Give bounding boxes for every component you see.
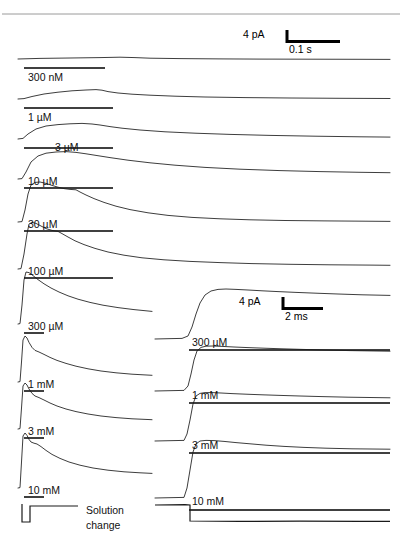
calibration-bar-slow (286, 30, 341, 43)
trace-right-10mM (155, 440, 390, 498)
conc-label-left-10mM: 10 mM (28, 485, 60, 496)
conc-label-left-100uM: 100 µM (28, 266, 63, 277)
trace-left-1uM (18, 90, 390, 99)
solution-change-left-pulse (22, 504, 78, 522)
trace-left-100uM (18, 222, 390, 269)
figure-canvas: 4 pA 0.1 s 4 pA 2 ms 300 nM 1 µM 3 µM 10… (0, 0, 404, 552)
trace-right-300uM (155, 289, 390, 339)
conc-label-right-300uM: 300 µM (192, 337, 227, 348)
conc-label-left-3mM: 3 mM (28, 426, 54, 437)
scale-current-label-fast: 4 pA (239, 295, 261, 307)
trace-right-3mM (155, 393, 390, 441)
trace-right-1mM (155, 346, 390, 391)
calibration-bar-fast (282, 297, 324, 310)
solution-change-label-line2: change (86, 520, 120, 531)
trace-left-10uM (18, 152, 390, 179)
conc-label-left-1uM: 1 µM (28, 112, 52, 123)
trace-left-300uM (18, 272, 152, 324)
scale-time-label-slow: 0.1 s (289, 43, 312, 55)
scale-time-label-fast: 2 ms (285, 310, 308, 322)
solution-change-right-step (155, 505, 390, 522)
trace-left-1mM (18, 336, 152, 382)
trace-left-10mM (18, 433, 152, 488)
conc-label-left-1mM: 1 mM (28, 379, 54, 390)
trace-left-3uM (18, 123, 390, 139)
conc-label-left-300nM: 300 nM (28, 72, 63, 83)
solution-change-label-line1: Solution (86, 505, 124, 516)
conc-label-right-1mM: 1 mM (192, 390, 218, 401)
conc-label-right-3mM: 3 mM (192, 440, 218, 451)
scale-current-label-slow: 4 pA (243, 28, 265, 40)
trace-left-300nM (18, 57, 390, 59)
conc-label-left-3uM: 3 µM (55, 142, 79, 153)
conc-label-left-300uM: 300 µM (28, 321, 63, 332)
conc-label-left-30uM: 30 µM (28, 219, 57, 230)
conc-label-right-10mM: 10 mM (192, 496, 224, 507)
conc-label-left-10uM: 10 µM (28, 176, 57, 187)
